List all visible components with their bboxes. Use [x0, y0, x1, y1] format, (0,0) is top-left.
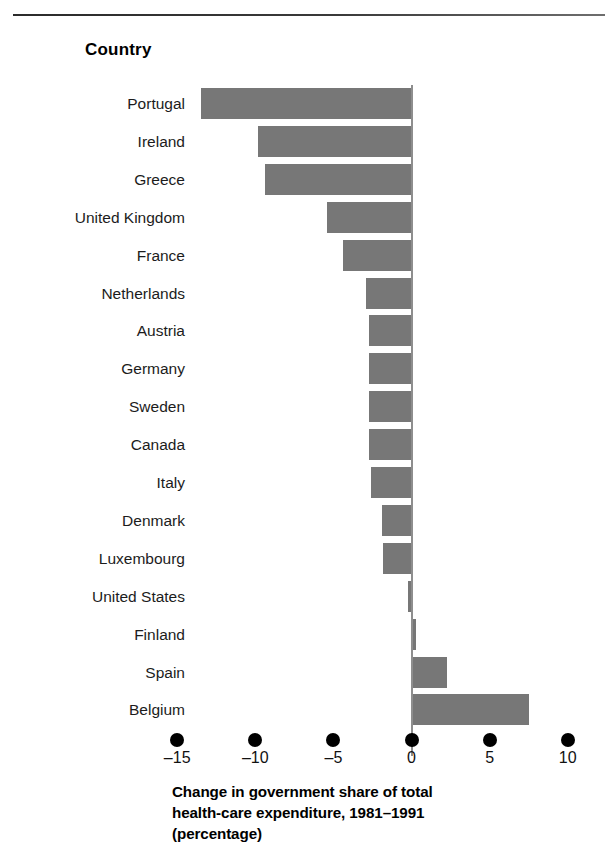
zero-axis-line: [411, 85, 413, 756]
chart-row: United States: [0, 578, 610, 616]
bar: [382, 505, 412, 536]
category-label: Netherlands: [0, 275, 185, 313]
category-label: Austria: [0, 312, 185, 350]
bar: [371, 467, 412, 498]
bar: [327, 202, 411, 233]
axis-tick-dot: [561, 733, 575, 747]
chart-row: Portugal: [0, 85, 610, 123]
axis-tick-dot: [248, 733, 262, 747]
caption-line-3: (percentage): [172, 823, 572, 844]
axis-tick-dot: [483, 733, 497, 747]
chart-row: Austria: [0, 312, 610, 350]
category-label: United Kingdom: [0, 199, 185, 237]
bar: [265, 164, 412, 195]
axis-tick-label: 5: [460, 749, 520, 767]
axis-tick-label: –10: [225, 749, 285, 767]
bar: [258, 126, 411, 157]
caption-line-1: Change in government share of total: [172, 781, 572, 802]
chart-row: Germany: [0, 350, 610, 388]
category-label: Canada: [0, 426, 185, 464]
chart-row: Ireland: [0, 123, 610, 161]
chart-row: Belgium: [0, 691, 610, 729]
bar: [383, 543, 411, 574]
bar: [412, 694, 529, 725]
axis-tick-label: –5: [303, 749, 363, 767]
axis-tick-label: 10: [538, 749, 598, 767]
top-horizontal-rule: [13, 14, 605, 16]
category-label: United States: [0, 578, 185, 616]
bar: [369, 391, 411, 422]
chart-row: Sweden: [0, 388, 610, 426]
chart-row: Netherlands: [0, 275, 610, 313]
chart-row: Denmark: [0, 502, 610, 540]
country-column-heading: Country: [85, 40, 152, 60]
category-label: Sweden: [0, 388, 185, 426]
caption-line-2: health-care expenditure, 1981–1991: [172, 802, 572, 823]
category-label: Finland: [0, 616, 185, 654]
bar: [366, 278, 411, 309]
category-label: France: [0, 237, 185, 275]
category-label: Germany: [0, 350, 185, 388]
chart-row: Greece: [0, 161, 610, 199]
chart-row: United Kingdom: [0, 199, 610, 237]
axis-tick-label: –15: [147, 749, 207, 767]
bar: [369, 315, 411, 346]
category-label: Spain: [0, 654, 185, 692]
category-label: Greece: [0, 161, 185, 199]
bar: [343, 240, 412, 271]
chart-row: Spain: [0, 654, 610, 692]
chart-row: Italy: [0, 464, 610, 502]
category-label: Italy: [0, 464, 185, 502]
axis-tick-label: 0: [382, 749, 442, 767]
bar: [201, 88, 412, 119]
bar: [369, 429, 411, 460]
bar: [369, 353, 411, 384]
category-label: Belgium: [0, 691, 185, 729]
bar: [412, 657, 448, 688]
chart-page: { "header": { "column_label": "Country" …: [0, 0, 610, 868]
axis-tick-dot: [326, 733, 340, 747]
axis-tick-dot: [170, 733, 184, 747]
chart-row: Luxembourg: [0, 540, 610, 578]
category-label: Ireland: [0, 123, 185, 161]
category-label: Denmark: [0, 502, 185, 540]
category-label: Luxembourg: [0, 540, 185, 578]
chart-caption: Change in government share of total heal…: [172, 781, 572, 844]
chart-row: Canada: [0, 426, 610, 464]
chart-row: Finland: [0, 616, 610, 654]
axis-tick-dot: [405, 733, 419, 747]
category-label: Portugal: [0, 85, 185, 123]
chart-row: France: [0, 237, 610, 275]
chart-plot-area: PortugalIrelandGreeceUnited KingdomFranc…: [0, 85, 610, 730]
x-axis: –15–10–50510: [0, 733, 610, 778]
